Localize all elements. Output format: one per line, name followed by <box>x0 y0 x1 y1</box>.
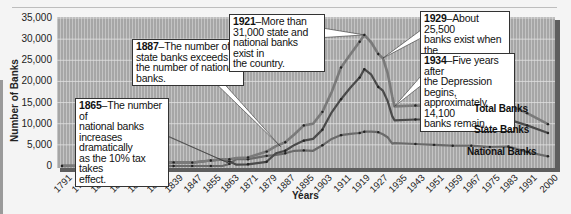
label-total-banks: Total Banks <box>474 103 528 114</box>
y-tick-label: 30,000 <box>8 33 52 44</box>
label-national-banks: National Banks <box>467 146 536 157</box>
y-axis-title: Number of Banks <box>9 56 20 146</box>
annotation-1865: 1865–The number of national banks increa… <box>75 98 169 187</box>
annotation-1921: 1921–More than 31,000 state and national… <box>229 14 325 72</box>
label-state-banks: State Banks <box>474 124 529 135</box>
annotation-1934: 1934–Five years after the Depression beg… <box>420 53 515 132</box>
y-tick-label: 35,000 <box>8 12 52 23</box>
x-axis-title: Years <box>292 190 319 201</box>
annotation-1887: 1887–The number of state banks exceeds t… <box>132 39 244 86</box>
y-tick-label: 0 <box>8 160 52 171</box>
